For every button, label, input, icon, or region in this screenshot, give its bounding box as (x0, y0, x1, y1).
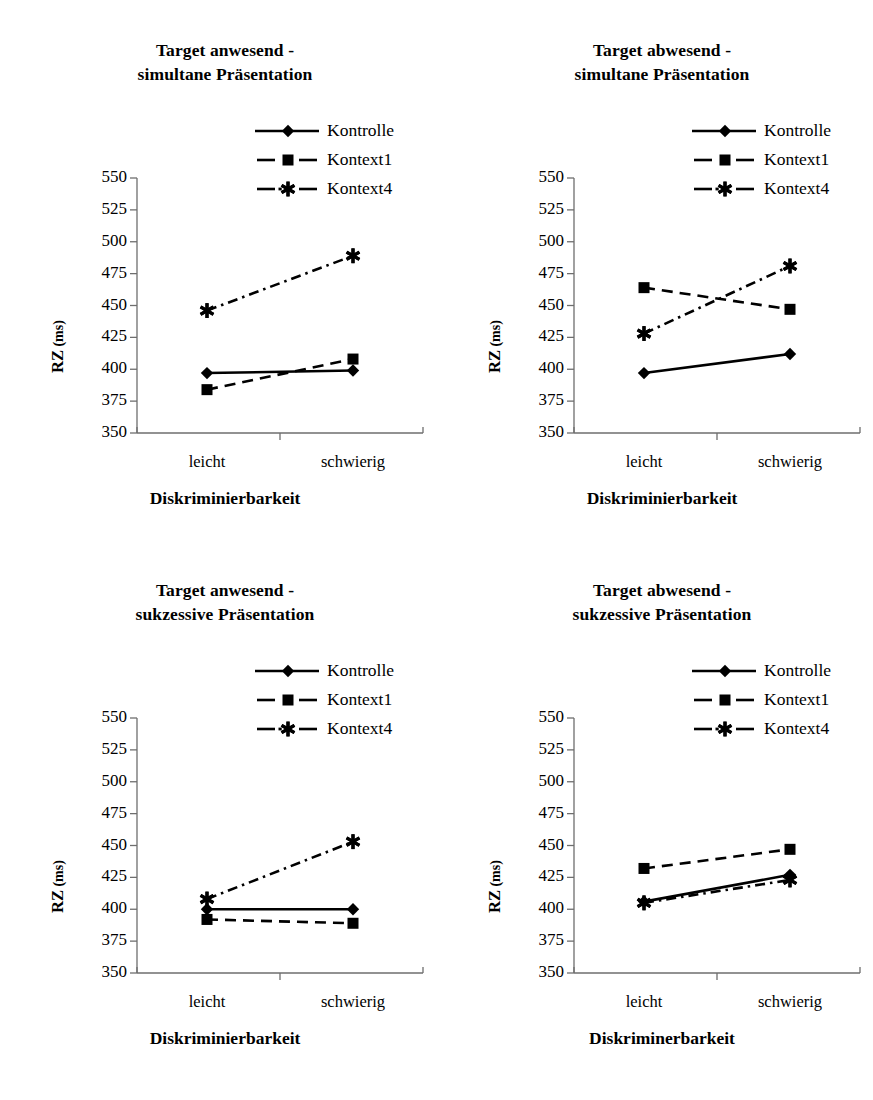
y-axis-tick-label: 550 (512, 707, 564, 727)
legend-swatch-asterisk (253, 716, 323, 742)
legend-label: Kontext4 (764, 178, 829, 199)
data-point-marker-diamond (201, 367, 213, 379)
x-axis-category-label-schwierig: schwierig (293, 452, 413, 472)
y-axis-title-main: RZ (48, 890, 67, 913)
x-axis-title: Diskriminierbarkeit (40, 1028, 410, 1049)
series-line-kontext1 (644, 849, 790, 868)
data-point-marker-square (785, 844, 796, 855)
y-axis-title-main: RZ (485, 350, 504, 373)
legend-swatch-asterisk (253, 176, 323, 202)
y-axis-tick-label: 475 (512, 263, 564, 283)
y-axis-tick-label: 525 (75, 199, 127, 219)
x-axis-category-label-schwierig: schwierig (730, 992, 850, 1012)
y-axis-title-unit: (ms) (488, 320, 503, 350)
legend-label: Kontext1 (327, 149, 392, 170)
y-axis-tick-label: 425 (75, 866, 127, 886)
data-point-marker-asterisk (719, 182, 732, 197)
y-axis-title: RZ (ms) (48, 320, 68, 373)
data-point-marker-asterisk (638, 326, 651, 341)
y-axis-title: RZ (ms) (48, 860, 68, 913)
legend-label: Kontrolle (764, 120, 831, 141)
data-point-marker-diamond (719, 125, 731, 137)
y-axis-tick-label: 525 (512, 739, 564, 759)
data-point-marker-square (720, 155, 731, 166)
y-axis-tick-label: 475 (512, 803, 564, 823)
x-axis-category-label-leicht: leicht (147, 452, 267, 472)
series-line-kontrolle (644, 354, 790, 373)
data-point-marker-diamond (719, 665, 731, 677)
y-axis-tick-label: 475 (75, 803, 127, 823)
series-line-kontext1 (207, 359, 353, 390)
legend-swatch-asterisk (690, 176, 760, 202)
y-axis-tick-label: 450 (75, 295, 127, 315)
chart-panel-4: Target abwesend -sukzessive Präsentation… (437, 550, 873, 1090)
data-point-marker-asterisk (719, 722, 732, 737)
y-axis-tick-label: 425 (75, 326, 127, 346)
legend-swatch-diamond (253, 658, 323, 684)
y-axis-tick-label: 550 (75, 707, 127, 727)
legend-swatch-diamond (253, 118, 323, 144)
data-point-marker-diamond (347, 364, 359, 376)
data-point-marker-square (283, 695, 294, 706)
y-axis-tick-label: 450 (75, 835, 127, 855)
y-axis-tick-label: 350 (75, 422, 127, 442)
series-line-kontext4 (207, 842, 353, 899)
chart-panel-2: Target abwesend -simultane Präsentation3… (437, 10, 873, 550)
legend-label: Kontext1 (764, 689, 829, 710)
y-axis-tick-label: 375 (512, 390, 564, 410)
data-point-marker-diamond (282, 125, 294, 137)
legend-swatch-asterisk (690, 716, 760, 742)
y-axis-tick-label: 450 (512, 295, 564, 315)
data-point-marker-asterisk (347, 248, 360, 263)
data-point-marker-asterisk (201, 892, 214, 907)
data-point-marker-diamond (347, 903, 359, 915)
y-axis-tick-label: 375 (75, 930, 127, 950)
data-point-marker-asterisk (347, 834, 360, 849)
x-axis-category-label-leicht: leicht (584, 992, 704, 1012)
x-axis-category-label-leicht: leicht (584, 452, 704, 472)
y-axis-tick-label: 400 (75, 358, 127, 378)
legend-label: Kontext1 (764, 149, 829, 170)
y-axis-tick-label: 450 (512, 835, 564, 855)
data-point-marker-square (283, 155, 294, 166)
x-axis-category-label-leicht: leicht (147, 992, 267, 1012)
figure-panel-grid: Target anwesend -simultane Präsentation3… (0, 0, 873, 1100)
data-point-marker-asterisk (282, 722, 295, 737)
y-axis-tick-label: 500 (512, 231, 564, 251)
y-axis-tick-label: 400 (75, 898, 127, 918)
legend-swatch-diamond (690, 118, 760, 144)
y-axis-tick-label: 500 (75, 231, 127, 251)
legend-label: Kontext4 (327, 718, 392, 739)
y-axis-tick-label: 500 (512, 771, 564, 791)
legend-label: Kontrolle (327, 660, 394, 681)
data-point-marker-asterisk (201, 303, 214, 318)
series-line-kontext4 (207, 256, 353, 311)
data-point-marker-diamond (784, 348, 796, 360)
y-axis-tick-label: 400 (512, 358, 564, 378)
y-axis-tick-label: 350 (75, 962, 127, 982)
x-axis-category-label-schwierig: schwierig (730, 452, 850, 472)
legend-label: Kontrolle (764, 660, 831, 681)
y-axis-tick-label: 550 (75, 167, 127, 187)
y-axis-title: RZ (ms) (485, 860, 505, 913)
y-axis-tick-label: 550 (512, 167, 564, 187)
x-axis-title: Diskriminierbarkeit (40, 488, 410, 509)
data-point-marker-asterisk (282, 182, 295, 197)
data-point-marker-square (348, 918, 359, 929)
x-axis-title: Diskriminierbarkeit (477, 488, 847, 509)
data-point-marker-square (639, 282, 650, 293)
y-axis-tick-label: 425 (512, 866, 564, 886)
y-axis-tick-label: 350 (512, 962, 564, 982)
y-axis-title-main: RZ (485, 890, 504, 913)
y-axis-tick-label: 400 (512, 898, 564, 918)
legend-swatch-diamond (690, 658, 760, 684)
data-point-marker-square (785, 304, 796, 315)
series-line-kontrolle (207, 371, 353, 374)
series-line-kontext4 (644, 880, 790, 903)
y-axis-tick-label: 375 (512, 930, 564, 950)
y-axis-title-main: RZ (48, 350, 67, 373)
series-line-kontext1 (207, 919, 353, 923)
data-point-marker-square (202, 384, 213, 395)
chart-panel-3: Target anwesend -sukzessive Präsentation… (0, 550, 436, 1090)
data-point-marker-diamond (282, 665, 294, 677)
